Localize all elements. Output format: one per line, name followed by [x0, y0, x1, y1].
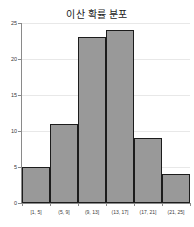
y-axis-tick-mark — [18, 95, 21, 96]
x-axis-tick-label: (5, 9] — [50, 209, 78, 216]
y-axis-tick-mark — [18, 59, 21, 60]
bar[interactable] — [78, 37, 106, 203]
x-axis-tick-mark — [78, 203, 79, 206]
x-axis-tick-mark — [162, 203, 163, 206]
x-axis-tick-mark — [190, 203, 191, 206]
bar[interactable] — [106, 30, 134, 203]
x-axis-tick-label: [1, 5] — [22, 209, 50, 216]
y-axis-tick-label: 0 — [3, 200, 17, 206]
x-axis-tick-label: (13, 17] — [106, 209, 134, 216]
plot-area — [22, 23, 190, 203]
chart-figure: 이산 확률 분포 0510152025 [1, 5](5, 9](9, 13](… — [0, 0, 194, 227]
y-axis-tick-mark — [18, 203, 21, 204]
x-axis-tick-label: (9, 13] — [78, 209, 106, 216]
y-axis-tick-label: 10 — [3, 128, 17, 134]
y-axis-tick-mark — [18, 167, 21, 168]
bar[interactable] — [134, 138, 162, 203]
x-axis-tick-mark — [106, 203, 107, 206]
y-axis-tick-label: 25 — [3, 20, 17, 26]
y-axis-tick-label: 15 — [3, 92, 17, 98]
y-axis-tick-mark — [18, 131, 21, 132]
x-axis-tick-label: (17, 21] — [134, 209, 162, 216]
y-axis-tick-labels: 0510152025 — [0, 0, 17, 227]
x-axis-tick-mark — [50, 203, 51, 206]
y-axis-tick-label: 20 — [3, 56, 17, 62]
gridline — [22, 23, 190, 24]
x-axis-tick-label: (21, 25] — [162, 209, 190, 216]
y-axis-tick-label: 5 — [3, 164, 17, 170]
x-axis-tick-mark — [134, 203, 135, 206]
x-axis-tick-mark — [22, 203, 23, 206]
bar[interactable] — [162, 174, 190, 203]
bar[interactable] — [50, 124, 78, 203]
bar[interactable] — [22, 167, 50, 203]
y-axis-tick-mark — [18, 23, 21, 24]
chart-title: 이산 확률 분포 — [0, 6, 194, 21]
